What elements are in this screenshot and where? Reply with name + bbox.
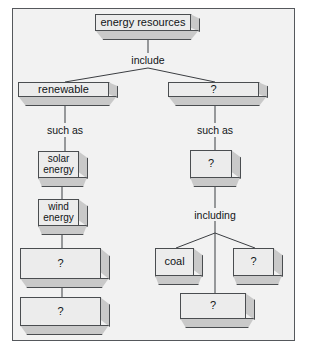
box-side-face — [100, 248, 110, 280]
box-bottom-face — [38, 225, 87, 235]
box-side-face — [231, 150, 241, 179]
connector-label-such-as-left: such as — [47, 124, 83, 136]
box-side-face — [78, 151, 88, 179]
node-label: ? — [168, 82, 259, 97]
node-right-leaf-unknown-2[interactable]: ? — [180, 293, 255, 328]
connector-label-include: include — [131, 54, 164, 66]
node-right-branch-unknown[interactable]: ? — [168, 82, 268, 106]
node-label: ? — [180, 293, 246, 319]
box-side-face — [100, 297, 110, 327]
box-bottom-face — [190, 177, 240, 187]
diagram-canvas: energy resources include renewable ? suc… — [0, 0, 309, 354]
box-side-face — [245, 293, 255, 320]
node-wind-energy[interactable]: wind energy — [38, 199, 88, 235]
box-side-face — [108, 82, 118, 98]
node-label: ? — [233, 248, 274, 276]
box-bottom-face — [180, 318, 254, 328]
box-bottom-face — [18, 96, 117, 106]
box-side-face — [78, 199, 88, 227]
box-side-face — [190, 14, 200, 32]
node-solar-energy[interactable]: solar energy — [38, 151, 88, 187]
node-right-child-unknown[interactable]: ? — [190, 150, 241, 187]
node-energy-resources[interactable]: energy resources — [95, 14, 200, 40]
node-left-child-unknown-1[interactable]: ? — [20, 248, 110, 288]
box-bottom-face — [95, 30, 199, 40]
node-label: renewable — [18, 82, 109, 97]
node-label: energy resources — [95, 14, 191, 31]
box-bottom-face — [20, 278, 109, 288]
connector-label-such-as-right: such as — [197, 124, 233, 136]
connector-label-including: including — [194, 209, 235, 221]
box-bottom-face — [155, 275, 202, 285]
box-bottom-face — [38, 177, 87, 187]
box-bottom-face — [233, 275, 282, 285]
node-right-leaf-unknown-1[interactable]: ? — [233, 248, 283, 285]
box-bottom-face — [20, 325, 109, 335]
node-coal[interactable]: coal — [155, 248, 203, 285]
node-left-child-unknown-2[interactable]: ? — [20, 297, 110, 335]
box-side-face — [258, 82, 268, 98]
node-label: ? — [20, 248, 101, 279]
node-label: coal — [155, 248, 194, 276]
node-label: ? — [190, 150, 232, 178]
box-side-face — [273, 248, 283, 277]
box-bottom-face — [168, 96, 267, 106]
node-label: ? — [20, 297, 101, 326]
node-renewable[interactable]: renewable — [18, 82, 118, 106]
node-label: wind energy — [38, 199, 79, 226]
node-label: solar energy — [38, 151, 79, 178]
box-side-face — [193, 248, 203, 277]
